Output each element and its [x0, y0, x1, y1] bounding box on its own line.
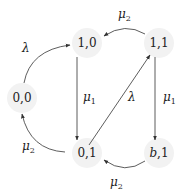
edge-11-to-10 [104, 28, 145, 36]
edge-label-mu2-11-10: μ2 [118, 7, 131, 23]
edge-label-lambda-01-11: λ [127, 90, 136, 104]
node-0-0-label: 0,0 [12, 91, 31, 105]
node-1-0-label: 1,0 [77, 36, 96, 50]
edge-label-lambda-00-10: λ [21, 41, 30, 55]
edge-00-to-10 [24, 45, 70, 83]
edge-01-to-11 [89, 55, 150, 145]
node-b-1-label: b,1 [149, 146, 168, 160]
edge-b1-to-01 [104, 160, 145, 168]
node-0-1-label: 0,1 [77, 146, 96, 160]
node-1-1-label: 1,1 [149, 36, 168, 50]
edge-label-mu1-11-b1: μ1 [163, 90, 176, 106]
edge-label-mu2-01-00: μ2 [22, 139, 35, 155]
edge-label-mu1-10-01: μ1 [83, 90, 96, 106]
edge-label-mu2-b1-01: μ2 [110, 175, 123, 191]
state-diagram: 0,0 1,0 1,1 0,1 b,1 λ μ2 μ1 λ μ1 μ2 μ2 [0, 0, 183, 194]
